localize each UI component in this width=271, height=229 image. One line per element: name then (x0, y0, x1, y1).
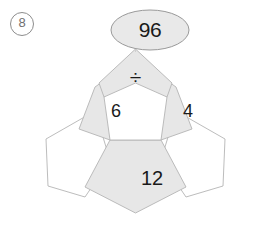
operator-label: ÷ (130, 65, 142, 88)
worksheet-problem: 8 96 ÷ 6 4 12 (0, 0, 271, 229)
result-bubble-value: 96 (139, 18, 161, 41)
upper-left-pentagon-value: 6 (111, 101, 121, 121)
pentagon-net-figure: 96 ÷ 6 4 12 (0, 0, 271, 229)
upper-right-pentagon-value: 4 (183, 101, 193, 121)
bottom-pentagon-value: 12 (141, 167, 163, 189)
